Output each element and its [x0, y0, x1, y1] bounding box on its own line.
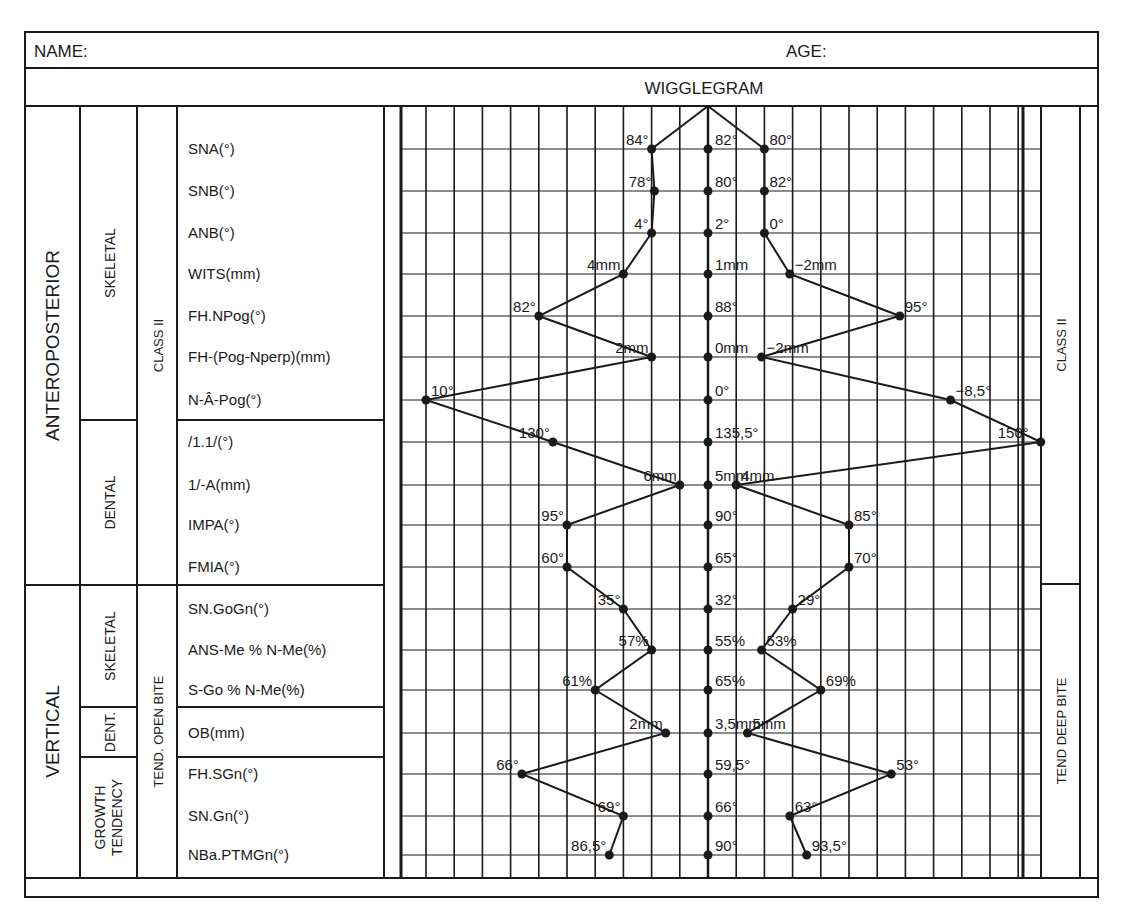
measurement-label: OB(mm)	[188, 724, 245, 741]
right-data-point	[743, 729, 752, 738]
left-value-label: 82°	[513, 298, 536, 315]
right-data-point	[845, 563, 854, 572]
svg-text:SKELETAL: SKELETAL	[102, 611, 118, 681]
chart-title: WIGGLEGRAM	[644, 79, 763, 98]
norm-data-point	[704, 686, 713, 695]
right-data-point	[760, 187, 769, 196]
right-data-point	[757, 646, 766, 655]
measurement-label: N-Â-Pog(°)	[188, 391, 262, 408]
right-value-label: 95°	[905, 298, 928, 315]
svg-text:SKELETAL: SKELETAL	[102, 228, 118, 298]
right-data-point	[785, 270, 794, 279]
norm-data-point	[704, 396, 713, 405]
svg-text:GROWTH: GROWTH	[92, 786, 108, 850]
norm-value-label: 65°	[715, 549, 738, 566]
right-data-point	[816, 686, 825, 695]
measurement-label: SNA(°)	[188, 140, 235, 157]
svg-text:CLASS II: CLASS II	[151, 319, 166, 372]
right-value-label: 53°	[896, 756, 919, 773]
right-data-point	[732, 481, 741, 490]
svg-text:VERTICAL: VERTICAL	[42, 685, 63, 778]
right-value-label: −2mm	[767, 339, 809, 356]
svg-text:TENDENCY: TENDENCY	[109, 778, 125, 856]
norm-value-label: 59,5°	[715, 756, 750, 773]
norm-data-point	[704, 851, 713, 860]
name-field-label: NAME:	[34, 42, 88, 61]
left-value-label: 10°	[431, 382, 454, 399]
measurement-label: SN.GoGn(°)	[188, 600, 269, 617]
right-value-label: 69%	[826, 672, 856, 689]
svg-text:DENT.: DENT.	[102, 712, 118, 752]
norm-value-label: 0°	[715, 382, 729, 399]
right-data-point	[760, 229, 769, 238]
norm-data-point	[704, 187, 713, 196]
right-value-label: 93,5°	[812, 837, 847, 854]
left-value-label: 35°	[598, 591, 621, 608]
svg-text:DENTAL: DENTAL	[102, 475, 118, 529]
norm-data-point	[704, 605, 713, 614]
sub-group-label: SKELETAL	[102, 611, 118, 681]
norm-data-point	[704, 229, 713, 238]
measurement-label: NBa.PTMGn(°)	[188, 846, 289, 863]
left-value-label: 95°	[541, 507, 564, 524]
norm-value-label: 65%	[715, 672, 745, 689]
norm-data-point	[704, 812, 713, 821]
norm-value-label: 90°	[715, 837, 738, 854]
left-value-label: 78°	[629, 173, 652, 190]
right-data-point	[785, 812, 794, 821]
norm-data-point	[704, 353, 713, 362]
norm-value-label: 2°	[715, 215, 729, 232]
norm-data-point	[704, 729, 713, 738]
norm-value-label: 32°	[715, 591, 738, 608]
left-value-label: 6mm	[643, 467, 676, 484]
norm-data-point	[704, 145, 713, 154]
norm-value-label: 90°	[715, 507, 738, 524]
svg-text:CLASS II: CLASS II	[1054, 318, 1069, 371]
right-value-label: 0°	[769, 215, 783, 232]
left-value-label: 4mm	[587, 256, 620, 273]
tendency-label-left: CLASS II	[151, 319, 166, 372]
norm-data-point	[704, 563, 713, 572]
right-value-label: 29°	[798, 591, 821, 608]
measurement-label: 1/-A(mm)	[188, 476, 251, 493]
right-value-label: 63°	[795, 798, 818, 815]
norm-data-point	[704, 270, 713, 279]
sub-group-label: DENT.	[102, 712, 118, 752]
right-value-label: −8,5°	[956, 382, 992, 399]
left-value-label: 66°	[496, 756, 519, 773]
norm-value-label: 135,5°	[715, 424, 759, 441]
measurement-label: /1.1/(°)	[188, 433, 233, 450]
right-value-label: 82°	[769, 173, 792, 190]
right-data-point	[788, 605, 797, 614]
norm-data-point	[704, 770, 713, 779]
left-value-label: 4°	[634, 215, 648, 232]
measurement-label: S-Go % N-Me(%)	[188, 681, 305, 698]
norm-value-label: 88°	[715, 298, 738, 315]
left-value-label: 84°	[626, 131, 649, 148]
measurement-label: FH-(Pog-Nperp)(mm)	[188, 348, 331, 365]
left-value-label: 69°	[598, 798, 621, 815]
norm-value-label: 80°	[715, 173, 738, 190]
measurement-label: IMPA(°)	[188, 516, 240, 533]
right-value-label: −2mm	[795, 256, 837, 273]
major-group-label-vertical: VERTICAL	[42, 685, 63, 778]
right-data-point	[760, 145, 769, 154]
right-data-point	[802, 851, 811, 860]
age-field-label: AGE:	[786, 42, 827, 61]
measurement-label: ANB(°)	[188, 224, 235, 241]
norm-data-point	[704, 438, 713, 447]
measurement-label: FH.SGn(°)	[188, 765, 258, 782]
norm-data-point	[704, 481, 713, 490]
right-value-label: 85°	[854, 507, 877, 524]
tendency-label-right: CLASS II	[1054, 318, 1069, 371]
major-group-label-anteroposterior: ANTEROPOSTERIOR	[42, 250, 63, 441]
right-value-label: 150°	[998, 424, 1029, 441]
measurement-label: FH.NPog(°)	[188, 307, 266, 324]
right-data-point	[845, 521, 854, 530]
svg-text:ANTEROPOSTERIOR: ANTEROPOSTERIOR	[42, 250, 63, 441]
right-value-label: 70°	[854, 549, 877, 566]
left-value-label: 2mm	[615, 339, 648, 356]
measurement-label: SNB(°)	[188, 182, 235, 199]
wigglegram-chart: NAME:AGE:WIGGLEGRAM ANTEROPOSTERIORVERTI…	[0, 0, 1124, 916]
tendency-label-left: TEND. OPEN BITE	[151, 675, 166, 787]
